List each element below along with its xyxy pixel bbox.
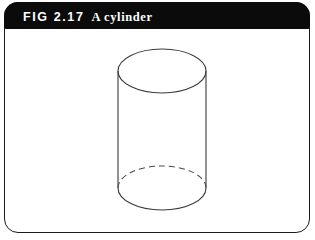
figure-caption: FIG 2.17A cylinder bbox=[23, 8, 153, 24]
cylinder-diagram bbox=[5, 29, 309, 232]
figure-root: FIG 2.17A cylinder bbox=[0, 0, 315, 240]
figure-caption-bar: FIG 2.17A cylinder bbox=[4, 2, 310, 29]
figure-drawing-area bbox=[5, 29, 309, 232]
figure-number: FIG 2.17 bbox=[23, 10, 84, 24]
figure-title: A cylinder bbox=[91, 10, 152, 24]
cylinder-bottom-front-arc bbox=[118, 188, 206, 210]
cylinder-top-face-ellipse bbox=[118, 49, 206, 93]
cylinder-bottom-back-arc-dashed bbox=[118, 166, 206, 188]
